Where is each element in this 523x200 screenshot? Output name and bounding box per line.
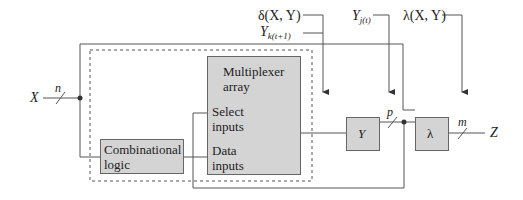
mux-select-line2: inputs xyxy=(212,119,244,134)
mux-title-line2: array xyxy=(223,79,250,94)
z-output-label: Z xyxy=(490,126,498,140)
mux-data-line1: Data xyxy=(212,143,237,158)
comb-line1: Combinational xyxy=(104,142,181,157)
output-logic-label: λ xyxy=(427,126,433,141)
mux-data-line2: inputs xyxy=(212,158,244,173)
yj-arrow xyxy=(373,15,389,92)
m-bus-label: m xyxy=(458,116,467,128)
comb-line2: logic xyxy=(104,157,130,172)
x-junction-dot xyxy=(78,96,83,101)
n-bus-label: n xyxy=(55,82,61,94)
delta-arrow xyxy=(303,15,323,92)
feedback-junction-dot xyxy=(402,120,407,125)
yk-label: Yk(t+1) xyxy=(260,25,291,41)
delta-label: δ(X, Y) xyxy=(258,9,301,23)
mux-select-line1: Select xyxy=(212,104,244,119)
mux-title-line1: Multiplexer xyxy=(223,64,284,79)
state-register-label: Y xyxy=(358,126,365,141)
p-bus-label: p xyxy=(387,106,393,118)
x-input-label: X xyxy=(30,91,39,105)
yj-label: Yj(t) xyxy=(352,9,371,25)
lambda-fn-label: λ(X, Y) xyxy=(403,9,446,23)
lambda-fn-arrow xyxy=(442,15,462,92)
